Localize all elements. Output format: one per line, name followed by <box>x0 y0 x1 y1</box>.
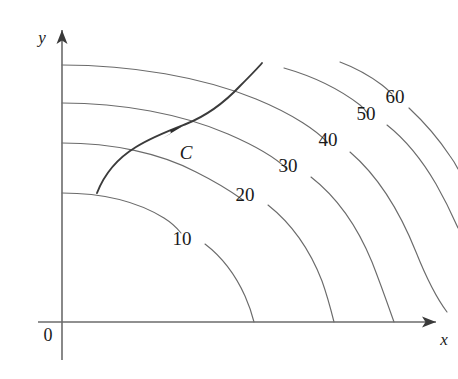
contour-30-segment-b <box>311 177 394 322</box>
contour-10-segment-a <box>62 193 181 233</box>
curve-c-label: C <box>180 142 193 163</box>
contour-20-segment-a <box>62 143 243 200</box>
contour-60-segment-a <box>340 62 392 94</box>
figure-canvas: 10 20 30 40 50 60 C 0 x y <box>0 0 458 379</box>
contour-30-segment-a <box>62 103 287 169</box>
contour-level-50 <box>284 68 458 228</box>
contour-50-segment-a <box>284 68 368 114</box>
contour-60-segment-b <box>409 108 458 169</box>
contour-10-segment-b <box>205 244 254 322</box>
contour-40-segment-a <box>62 65 327 142</box>
y-axis-label: y <box>36 28 46 47</box>
contour-label-10: 10 <box>173 228 192 249</box>
curve-c-group <box>97 63 262 193</box>
contour-label-20: 20 <box>236 184 255 205</box>
contour-label-30: 30 <box>279 155 298 176</box>
contour-level-30 <box>62 103 394 322</box>
contour-level-10 <box>62 193 254 322</box>
contour-label-60: 60 <box>386 86 405 107</box>
contour-40-segment-b <box>350 152 447 312</box>
contour-plot-figure: 10 20 30 40 50 60 C 0 x y <box>0 0 458 379</box>
contour-label-50: 50 <box>357 103 376 124</box>
contour-20-segment-b <box>268 205 334 322</box>
x-axis-label: x <box>439 330 448 349</box>
contour-label-40: 40 <box>319 129 338 150</box>
origin-label: 0 <box>44 325 53 345</box>
